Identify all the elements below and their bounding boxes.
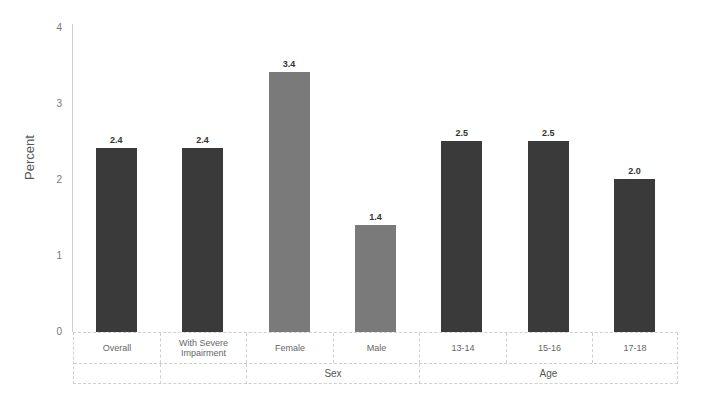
cat-female: Female <box>246 333 333 363</box>
bar-chart: Percent 0 1 2 3 4 2.42.43.41.42.52.52.0 … <box>0 0 713 409</box>
bar-5 <box>528 141 569 332</box>
value-label-5: 2.5 <box>518 128 578 138</box>
cat-overall: Overall <box>74 333 160 363</box>
cat-severe-line2: Impairment <box>181 348 226 358</box>
value-label-6: 2.0 <box>605 166 665 176</box>
cat-severe-line1: With Severe <box>179 338 228 348</box>
bar-0 <box>96 148 137 332</box>
bar-1 <box>182 148 223 332</box>
value-label-0: 2.4 <box>86 135 146 145</box>
y-tick-0: 0 <box>48 326 62 337</box>
cat-17-18: 17-18 <box>592 333 677 363</box>
bar-3 <box>355 225 396 332</box>
y-tick-2: 2 <box>48 174 62 185</box>
bar-6 <box>614 179 655 332</box>
category-axis-table: Overall With Severe Impairment Female Ma… <box>73 332 678 384</box>
cat-15-16: 15-16 <box>506 333 592 363</box>
value-label-2: 3.4 <box>259 59 319 69</box>
value-label-1: 2.4 <box>173 135 233 145</box>
cat-13-14: 13-14 <box>419 333 506 363</box>
y-tick-3: 3 <box>48 98 62 109</box>
group-age: Age <box>419 364 677 384</box>
group-sex: Sex <box>246 364 419 384</box>
value-label-3: 1.4 <box>345 212 405 222</box>
bar-2 <box>269 72 310 332</box>
y-axis-label: Percent <box>22 135 37 180</box>
cat-male: Male <box>333 333 419 363</box>
y-tick-4: 4 <box>48 22 62 33</box>
cat-severe: With Severe Impairment <box>160 333 246 363</box>
y-axis-line <box>72 24 73 332</box>
value-label-4: 2.5 <box>432 128 492 138</box>
y-tick-1: 1 <box>48 250 62 261</box>
bar-4 <box>441 141 482 332</box>
group-empty <box>160 364 246 384</box>
